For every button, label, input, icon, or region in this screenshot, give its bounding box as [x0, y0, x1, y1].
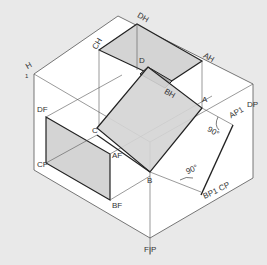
- label-one: 1: [25, 73, 28, 79]
- label-A: A: [202, 96, 207, 104]
- label-C: C: [92, 127, 98, 135]
- label-CF: CF: [37, 161, 48, 169]
- glass-box-diagram: H 1 CH DH AH D BH A DP AP1 90° C DF CF A…: [0, 0, 267, 265]
- diagram-drawing: [0, 0, 267, 265]
- label-DP: DP: [247, 101, 258, 109]
- label-DF: DF: [37, 106, 48, 114]
- label-B: B: [147, 177, 152, 185]
- label-FP: F|P: [144, 246, 156, 254]
- label-D: D: [139, 57, 145, 65]
- label-AF: AF: [112, 152, 122, 160]
- label-BF: BF: [112, 202, 122, 210]
